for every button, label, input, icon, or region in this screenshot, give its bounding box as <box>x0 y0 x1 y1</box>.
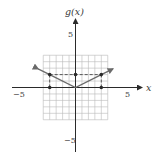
data-point <box>100 86 104 90</box>
data-point <box>48 73 52 77</box>
graph-of-g: g(x) x −5 5 5 −5 <box>0 0 156 159</box>
data-point <box>48 86 52 90</box>
x-axis-label: x <box>146 82 152 93</box>
y-min-tick-label: −5 <box>64 136 76 145</box>
x-max-tick-label: 5 <box>125 90 130 99</box>
data-point <box>74 73 78 77</box>
data-point <box>100 73 104 77</box>
y-axis-label: g(x) <box>65 6 84 17</box>
y-max-tick-label: 5 <box>68 30 73 39</box>
x-min-tick-label: −5 <box>13 90 25 99</box>
